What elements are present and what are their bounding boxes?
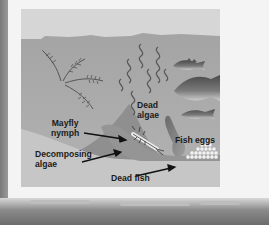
label-dead-algae: Dead algae xyxy=(137,101,159,120)
label-decomposing-algae: Decomposing algae xyxy=(35,150,92,169)
label-dead-fish: Dead fish xyxy=(111,174,150,184)
page-bottom-shadow xyxy=(0,198,269,225)
page-edge-shadow xyxy=(0,0,8,225)
label-fish-eggs: Fish eggs xyxy=(175,136,215,146)
label-mayfly-nymph: Mayfly nymph xyxy=(51,119,79,138)
lake-diagram: Dead algae Mayfly nymph Decomposing alga… xyxy=(21,9,220,187)
